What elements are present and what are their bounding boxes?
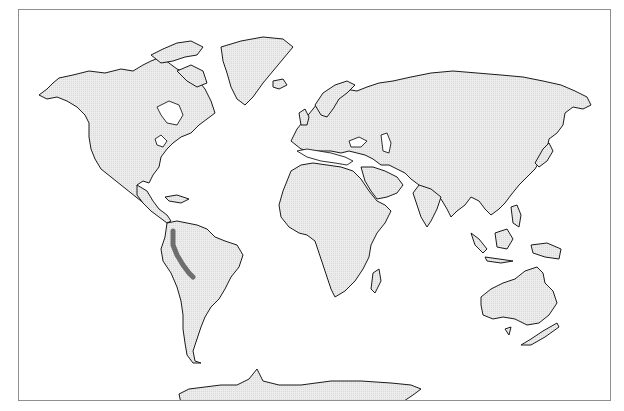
new-guinea <box>531 243 561 259</box>
borneo <box>495 229 513 249</box>
cuba <box>165 195 189 203</box>
iceland <box>273 79 287 89</box>
antarctica <box>179 369 421 401</box>
central-america <box>137 185 171 223</box>
map-canvas <box>19 10 611 401</box>
java <box>485 257 513 263</box>
arctic-islands <box>151 41 203 63</box>
new-zealand <box>521 323 559 345</box>
world-map <box>18 9 611 401</box>
british-isles <box>299 109 309 125</box>
madagascar <box>371 269 381 293</box>
australia <box>481 267 557 325</box>
tasmania <box>505 327 511 335</box>
sumatra <box>471 233 487 253</box>
philippines <box>511 205 521 227</box>
greenland <box>221 37 293 105</box>
